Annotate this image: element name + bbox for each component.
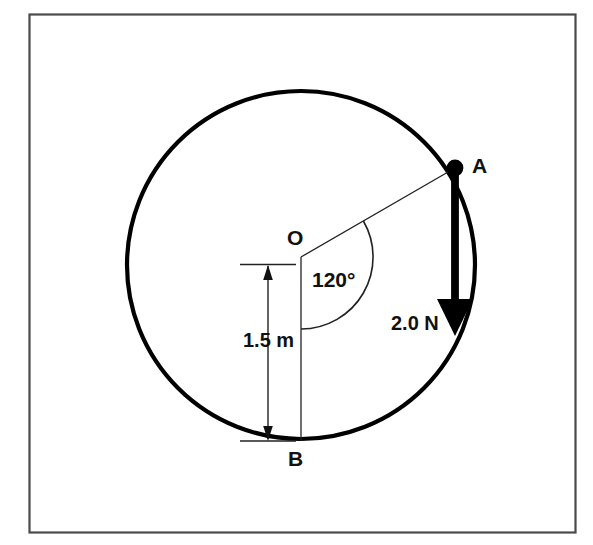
circle-force-diagram: A O B 120° 2.0 N 1.5 m [0,0,593,545]
point-a-marker [447,160,464,177]
label-dimension-radius: 1.5 m [243,329,294,351]
label-angle-120: 120° [312,268,355,291]
label-point-a: A [472,154,487,177]
label-point-o: O [287,226,303,249]
figure-container: A O B 120° 2.0 N 1.5 m [0,0,593,545]
label-point-b: B [288,447,303,470]
label-force-magnitude: 2.0 N [391,312,439,334]
force-arrow-shaft [451,168,459,303]
